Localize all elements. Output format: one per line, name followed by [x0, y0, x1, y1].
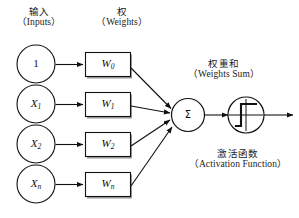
weights-sum-heading-en: （Weights Sum）: [176, 69, 272, 80]
weight-box-label: W1: [93, 97, 123, 111]
input-node-label: 1: [21, 57, 51, 71]
weights-heading-en: （Weights）: [88, 17, 156, 28]
inputs-heading-en: （Inputs）: [6, 17, 72, 28]
weights-sum-heading-cn: 权重和: [176, 58, 272, 69]
weight-to-sum-arrow: [131, 120, 170, 146]
inputs-heading: 输入 （Inputs）: [6, 6, 72, 28]
activation-heading-cn: 激活函数: [182, 148, 294, 159]
weight-box-label: W2: [93, 137, 123, 151]
weights-heading-cn: 权: [88, 6, 156, 17]
inputs-heading-cn: 输入: [6, 6, 72, 17]
weight-box-label: Wn: [93, 177, 123, 191]
weight-to-sum-arrow: [131, 106, 170, 113]
weight-box-label: W0: [93, 57, 123, 71]
weights-heading: 权 （Weights）: [88, 6, 156, 28]
neural-neuron-diagram: 输入 （Inputs） 权 （Weights） 权重和 （Weights Sum…: [0, 0, 299, 218]
weight-to-sum-arrow: [131, 127, 172, 186]
weights-sum-heading: 权重和 （Weights Sum）: [176, 58, 272, 80]
weight-to-sum-arrow: [131, 68, 171, 109]
summation-symbol: Σ: [178, 109, 198, 120]
input-node-label: Xn: [21, 177, 51, 191]
activation-heading-en: （Activation Function）: [182, 159, 294, 170]
activation-heading: 激活函数 （Activation Function）: [182, 148, 294, 170]
input-node-label: X1: [21, 97, 51, 111]
input-node-label: X2: [21, 137, 51, 151]
